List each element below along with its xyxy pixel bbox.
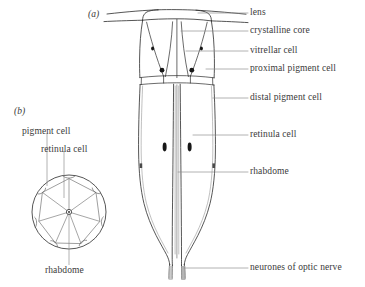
label-proximal-pigment-cell: proximal pigment cell bbox=[250, 64, 336, 74]
nucleus-dot bbox=[160, 68, 165, 73]
label-retinula-cell: retinula cell bbox=[250, 130, 296, 140]
lens-outline bbox=[104, 10, 248, 23]
label-lens: lens bbox=[250, 8, 266, 18]
figure-root: (a) (b) lens crystalline core vitrellar … bbox=[0, 0, 365, 287]
label-retinula-cell-b: retinula cell bbox=[41, 145, 87, 155]
panel-a-drawing bbox=[104, 10, 248, 280]
panel-b-tag: (b) bbox=[14, 106, 25, 116]
label-pigment-cell: pigment cell bbox=[22, 127, 70, 137]
nucleus-oval bbox=[188, 143, 192, 152]
optic-nerve-bundle-fill bbox=[169, 266, 186, 280]
nucleus-dot bbox=[189, 68, 194, 73]
label-rhabdome: rhabdome bbox=[250, 167, 289, 177]
rhabdome-granules bbox=[140, 163, 215, 168]
panel-a-tag: (a) bbox=[88, 9, 99, 19]
label-rhabdome-b: rhabdome bbox=[45, 266, 84, 276]
nucleus-oval bbox=[163, 143, 167, 152]
label-vitrellar-cell: vitrellar cell bbox=[250, 46, 298, 56]
label-crystalline-core: crystalline core bbox=[250, 26, 310, 36]
nucleus-dot bbox=[200, 46, 203, 50]
label-optic-nerve: neurones of optic nerve bbox=[250, 263, 342, 273]
nucleus-dot bbox=[151, 46, 154, 50]
label-distal-pigment-cell: distal pigment cell bbox=[250, 93, 322, 103]
